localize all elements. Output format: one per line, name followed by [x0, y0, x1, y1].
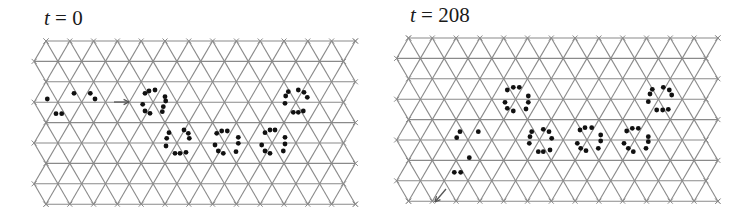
- panel-t0: t = 0: [0, 0, 376, 223]
- lattice-plot-t0: [0, 0, 376, 223]
- arrow-icon: [435, 189, 446, 202]
- lattice-grid: [34, 41, 355, 204]
- equals-sign: =: [416, 3, 438, 27]
- lattice-grid: [397, 38, 718, 201]
- panel-label-t0: t = 0: [44, 6, 83, 31]
- equals-sign: =: [50, 6, 72, 30]
- time-value: 0: [72, 6, 83, 30]
- arrow-icon: [114, 99, 129, 104]
- lattice-plot-t208: [376, 0, 752, 223]
- time-value: 208: [438, 3, 470, 27]
- panel-label-t208: t = 208: [410, 3, 470, 28]
- panel-t208: t = 208: [376, 0, 752, 223]
